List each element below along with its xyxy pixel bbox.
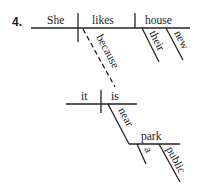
sentence-diagram: 4. She likes house their new because it … — [0, 0, 203, 189]
sub-verb-word: is — [111, 90, 119, 102]
object-word: house — [145, 14, 172, 26]
prep-object-park: park — [141, 130, 162, 143]
modifier-their: their — [147, 28, 167, 52]
modifier-new: new — [172, 28, 192, 51]
item-number: 4. — [12, 15, 22, 29]
verb-word: likes — [92, 14, 114, 26]
connector-because: because — [94, 32, 122, 70]
modifier-a: a — [142, 144, 155, 154]
sub-subject-word: it — [81, 90, 88, 102]
modifier-public: public — [163, 144, 188, 175]
subject-word: She — [47, 14, 64, 26]
